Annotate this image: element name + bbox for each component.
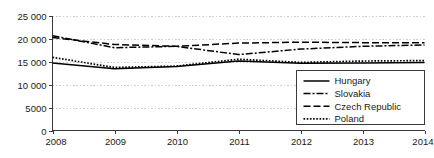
x-tick-label-2012: 2012 <box>291 136 312 147</box>
chart-canvas: 0500010 00015 00020 00025 000 2008200920… <box>0 0 434 158</box>
x-tick-label-2010: 2010 <box>167 136 188 147</box>
x-tick-label-2011: 2011 <box>229 136 249 147</box>
y-tick-label-10000: 10 000 <box>17 80 46 91</box>
y-tick-label-15000: 15 000 <box>17 57 46 68</box>
legend-label: Czech Republic <box>335 101 402 112</box>
y-tick-label-25000: 25 000 <box>17 11 46 22</box>
x-tick-label-2008: 2008 <box>46 136 67 147</box>
legend-label: Slovakia <box>335 88 372 99</box>
x-tick-label-2014: 2014 <box>412 136 433 147</box>
line-chart: 0500010 00015 00020 00025 000 2008200920… <box>0 0 434 158</box>
legend-label: Poland <box>335 113 365 124</box>
x-tick-label-2013: 2013 <box>353 136 374 147</box>
y-tick-label-20000: 20 000 <box>17 34 46 45</box>
x-tick-label-2009: 2009 <box>105 136 126 147</box>
y-tick-label-5000: 5000 <box>25 103 46 114</box>
chart-legend[interactable]: HungarySlovakiaCzech RepublicPoland <box>297 71 425 125</box>
legend-label: Hungary <box>335 75 371 86</box>
